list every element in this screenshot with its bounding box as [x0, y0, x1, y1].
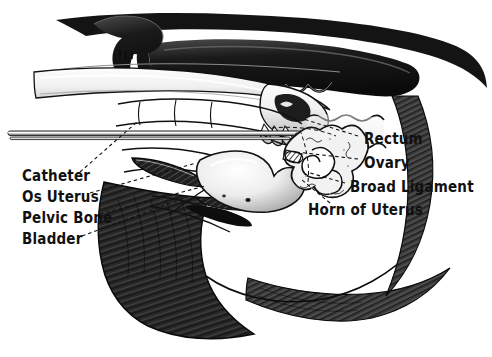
label-broad-ligament: Broad Ligament [350, 179, 474, 194]
label-bladder: Bladder [22, 231, 83, 246]
label-horn-of-uterus: Horn of Uterus [308, 202, 423, 217]
label-rectum: Rectum [364, 131, 423, 146]
label-catheter: Catheter [22, 168, 90, 183]
label-ovary: Ovary [364, 155, 410, 170]
illustration-canvas: Catheter Os Uterus Pelvic Bone Bladder R… [0, 0, 492, 357]
label-os-uterus: Os Uterus [22, 189, 99, 204]
label-pelvic-bone: Pelvic Bone [22, 210, 112, 225]
